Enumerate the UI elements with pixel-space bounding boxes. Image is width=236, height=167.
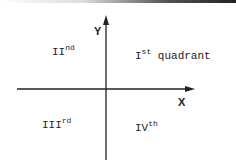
quadrant-numeral: IV: [135, 122, 148, 134]
y-axis-label: Y: [94, 26, 101, 37]
y-arrow-icon: [103, 15, 109, 25]
x-axis-label: X: [178, 97, 185, 108]
x-arrow-icon: [185, 86, 195, 92]
quadrant-4-label: IVth: [135, 120, 158, 134]
quadrant-3-label: IIIrd: [42, 117, 71, 131]
quadrant-numeral: I: [135, 50, 142, 62]
axes: [0, 0, 236, 167]
quadrant-suffix: th: [148, 119, 158, 128]
quadrant-2-label: IInd: [52, 44, 75, 58]
y-axis: [103, 15, 109, 160]
quadrant-numeral: III: [42, 119, 62, 131]
quadrant-word: quadrant: [158, 50, 211, 62]
quadrant-suffix: st: [142, 47, 152, 56]
quadrant-suffix: nd: [65, 43, 75, 52]
quadrant-1-label: Ist quadrant: [135, 48, 211, 62]
quadrant-suffix: rd: [62, 116, 72, 125]
quadrant-numeral: II: [52, 46, 65, 58]
